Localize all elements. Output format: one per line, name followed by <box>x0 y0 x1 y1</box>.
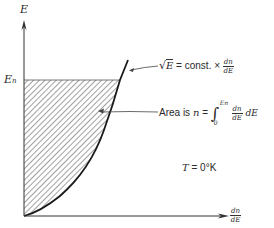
fermi-level-sub: n <box>12 77 17 85</box>
area-prefix: Area is <box>159 107 193 118</box>
temperature-value: = 0°K <box>189 162 217 173</box>
fermi-level-label: En <box>4 73 17 86</box>
curve-eq-text: = const. × <box>173 60 222 71</box>
curve-annotation: √E = const. × dn dE <box>159 58 234 75</box>
curve-frac-den: dE <box>224 67 234 75</box>
area-annotation: Area is n = ∫ En 0 dn dE dE <box>159 104 258 123</box>
curve-frac-num: dn <box>223 58 234 67</box>
area-leader-line <box>102 112 158 113</box>
hatched-area <box>24 80 120 216</box>
area-equals: = <box>199 107 210 118</box>
area-suffix: dE <box>243 108 258 118</box>
integral-upper: En <box>220 99 228 106</box>
x-axis-label: dn dE <box>230 205 241 224</box>
temperature-label: T = 0°K <box>182 162 216 173</box>
temperature-var: T <box>182 162 189 173</box>
area-frac-num: dn <box>232 105 243 114</box>
fermi-level-main: E <box>4 73 12 86</box>
curve-leader-arrow-icon <box>129 68 134 72</box>
sqrt-icon: √ <box>159 59 166 72</box>
integral-lower: 0 <box>214 119 218 126</box>
y-axis-label: E <box>20 3 28 16</box>
x-axis-label-num: dn <box>230 207 241 216</box>
area-frac-den: dE <box>232 114 242 122</box>
curve-leader-line <box>131 66 158 70</box>
x-axis-label-den: dE <box>231 216 241 224</box>
